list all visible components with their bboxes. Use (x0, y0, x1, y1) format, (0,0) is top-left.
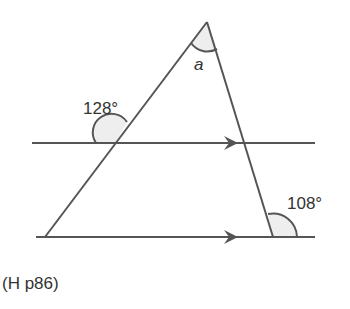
triangle-right-side (207, 22, 273, 237)
triangle-left-side (45, 22, 207, 237)
angle-a-label: a (194, 55, 203, 74)
angle-128-label: 128° (83, 99, 118, 118)
angle-108-label: 108° (287, 194, 322, 213)
caption: (H p86) (2, 274, 59, 294)
diagram: a 128° 108° (0, 0, 350, 309)
angle-128-arc (93, 114, 127, 143)
